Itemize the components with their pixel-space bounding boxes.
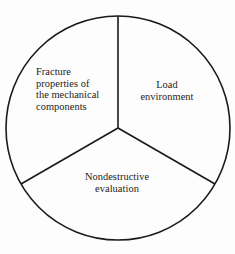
sector-label-fracture: Fracture properties of the mechanical co… [36,66,114,112]
sector-label-load: Load environment [131,79,203,102]
circle-diagram-graphic [0,0,235,254]
diagram-canvas: Fracture properties of the mechanical co… [0,0,235,254]
sector-label-nondestructive: Nondestructive evaluation [70,171,164,194]
